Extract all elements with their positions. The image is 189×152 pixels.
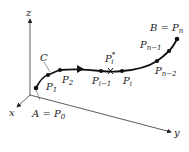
curve-label: C xyxy=(40,52,48,63)
point-P1 xyxy=(46,73,50,77)
label-Pstar: P*i xyxy=(104,51,116,66)
x-axis xyxy=(17,95,30,107)
label-Pi: Pi xyxy=(122,75,132,88)
point-Pnm2 xyxy=(155,59,159,63)
label-Pnm2: Pn−2 xyxy=(154,65,177,78)
point-B xyxy=(175,37,180,42)
label-Pnm1: Pn−1 xyxy=(139,39,162,52)
point-P2 xyxy=(58,68,62,72)
point-A xyxy=(34,86,39,91)
label-B: B = Pn xyxy=(149,22,184,35)
curve-partition-diagram: z x y C A = P0 P1 P2 Pi−1 P*i Pi Pn−2 Pn… xyxy=(0,0,189,152)
y-axis-label: y xyxy=(173,127,180,138)
label-P2: P2 xyxy=(61,74,74,87)
point-A-leader xyxy=(36,90,40,100)
label-P1: P1 xyxy=(45,81,57,94)
x-axis-label: x xyxy=(9,107,15,118)
point-Pim1 xyxy=(99,69,103,73)
direction-arrow-icon xyxy=(77,65,84,73)
label-Pim1: Pi−1 xyxy=(91,75,111,88)
label-A: A = P0 xyxy=(31,108,66,121)
z-axis-label: z xyxy=(25,7,32,18)
curve-label-leader xyxy=(44,62,50,72)
point-Pi xyxy=(120,69,124,73)
diagram-svg: z x y C A = P0 P1 P2 Pi−1 P*i Pi Pn−2 Pn… xyxy=(0,0,189,152)
point-Pnm1 xyxy=(167,49,171,53)
